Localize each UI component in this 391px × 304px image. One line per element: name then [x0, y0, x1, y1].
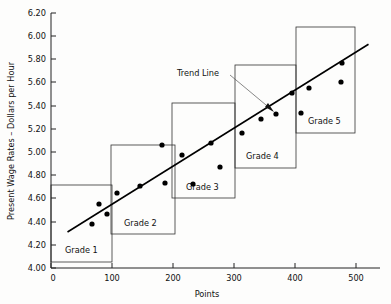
data-point	[298, 110, 303, 115]
data-point	[208, 140, 213, 145]
y-tick-label: 6.20	[28, 8, 46, 18]
data-point	[190, 181, 195, 186]
data-point	[179, 152, 184, 157]
annotation-leader-line	[230, 75, 272, 110]
chart-canvas: Grade 1 Grade 2 Grade 3 Grade 4 Grade 5 …	[0, 0, 391, 304]
y-tick-label: 5.20	[28, 124, 46, 134]
data-points-group	[89, 60, 344, 226]
y-tick-label: 5.00	[28, 147, 46, 157]
grade-box-label-1: Grade 1	[65, 245, 98, 255]
data-point	[289, 90, 294, 95]
y-tick-label: 5.60	[28, 77, 46, 87]
data-point	[239, 130, 244, 135]
trend-line-annotation: Trend Line	[176, 68, 274, 112]
y-tick-label: 5.40	[28, 101, 46, 111]
annotation-label-trend-line: Trend Line	[176, 68, 219, 78]
x-tick-label: 500	[348, 273, 364, 283]
y-tick-label: 4.40	[28, 217, 46, 227]
y-tick-label: 4.60	[28, 193, 46, 203]
data-point	[258, 116, 263, 121]
data-point	[114, 190, 119, 195]
x-tick-label: 300	[226, 273, 242, 283]
x-tick-label: 200	[165, 273, 181, 283]
wage-rate-scatter-chart: Grade 1 Grade 2 Grade 3 Grade 4 Grade 5 …	[0, 0, 391, 304]
data-point	[273, 111, 278, 116]
data-point	[137, 183, 142, 188]
grade-box-label-4: Grade 4	[246, 151, 279, 161]
data-point	[89, 221, 94, 226]
x-axis-title: Points	[195, 289, 220, 299]
grade-box-label-5: Grade 5	[308, 116, 341, 126]
y-tick-label: 6.00	[28, 31, 46, 41]
data-point	[159, 142, 164, 147]
y-tick-label: 4.20	[28, 240, 46, 250]
data-point	[306, 85, 311, 90]
data-point	[96, 201, 101, 206]
x-tick-label: 100	[104, 273, 120, 283]
data-point	[217, 164, 222, 169]
x-tick-label: 0	[50, 273, 55, 283]
x-tick-label: 400	[287, 273, 303, 283]
data-point	[104, 211, 109, 216]
grade-boxes-group	[51, 27, 355, 262]
data-point	[339, 60, 344, 65]
data-point	[338, 79, 343, 84]
x-axis: 0 100 200 300 400 500 Points	[50, 263, 380, 299]
y-tick-label: 4.80	[28, 170, 46, 180]
y-axis: 6.20 6.00 5.80 5.60 5.40 5.20 5.00 4.80 …	[6, 8, 56, 273]
y-tick-label: 5.80	[28, 54, 46, 64]
y-axis-title: Present Wage Rates – Dollars per Hour	[6, 61, 16, 220]
grade-box-label-2: Grade 2	[124, 218, 157, 228]
y-tick-label: 4.00	[28, 263, 46, 273]
data-point	[162, 180, 167, 185]
